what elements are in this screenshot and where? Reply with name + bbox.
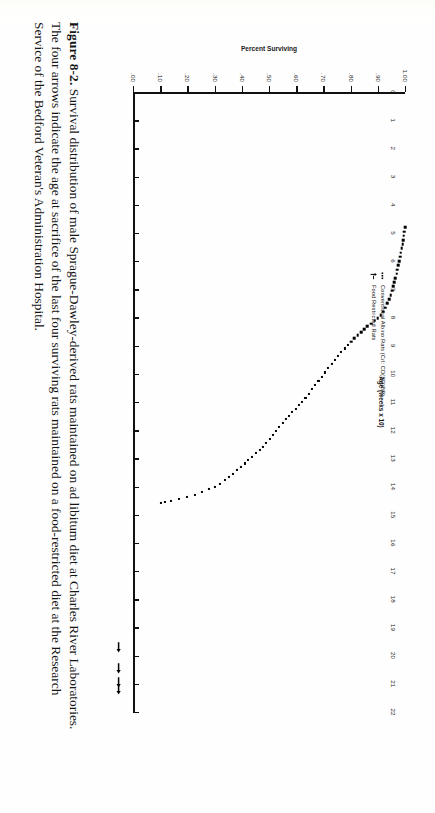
data-point [240, 466, 242, 468]
data-point [272, 434, 274, 436]
y-tick-label: .00 [130, 73, 137, 82]
data-point [164, 501, 166, 503]
y-tick-label: .20 [184, 73, 191, 82]
data-point [360, 331, 363, 334]
y-tick [351, 86, 352, 92]
data-point [243, 462, 245, 464]
data-point [186, 496, 188, 498]
y-tick [323, 86, 324, 92]
data-point [340, 351, 342, 353]
x-tick-label: 1 [390, 118, 397, 122]
data-point [396, 268, 399, 271]
data-point [314, 384, 316, 386]
x-tick [133, 712, 139, 713]
data-point [393, 281, 396, 284]
x-tick-label: 19 [390, 624, 397, 631]
x-tick [133, 656, 139, 657]
y-tick-label: .90 [374, 73, 381, 82]
data-point [301, 401, 303, 403]
y-tick [187, 86, 188, 92]
data-point [285, 418, 287, 420]
x-tick-label: 18 [390, 596, 397, 603]
data-point [288, 414, 290, 416]
data-point [399, 256, 402, 259]
y-tick [405, 86, 406, 92]
x-tick-label: 13 [390, 455, 397, 462]
y-axis-line [133, 92, 405, 94]
data-point [400, 247, 403, 250]
x-tick-label: 16 [390, 539, 397, 546]
sacrifice-arrow [122, 662, 129, 674]
data-point [291, 411, 293, 413]
data-point [334, 359, 336, 361]
data-point [194, 494, 196, 496]
chart-legend: Conventional Albino Rats (Crl: CD(SD)BR)… [369, 272, 387, 396]
x-tick [133, 177, 139, 178]
data-point [363, 328, 366, 331]
chart-axes-area: 012345678910111213141516171819202122 .00… [133, 92, 405, 712]
figure-caption-text: Survival distribution of male Sprague-Da… [32, 22, 82, 729]
data-point [401, 243, 404, 246]
y-tick-label: .50 [266, 73, 273, 82]
y-tick-label: .40 [238, 73, 245, 82]
data-point [344, 347, 346, 349]
data-point [395, 272, 398, 275]
x-tick-label: 17 [390, 568, 397, 575]
x-tick [133, 233, 139, 234]
rotated-page-content: 012345678910111213141516171819202122 .00… [0, 0, 435, 813]
data-point [170, 500, 172, 502]
data-point [394, 277, 397, 280]
y-tick [160, 86, 161, 92]
data-point [259, 449, 261, 451]
data-point [392, 285, 395, 288]
data-point [262, 445, 264, 447]
data-point [308, 392, 310, 394]
y-tick [378, 86, 379, 92]
legend-item-food-restricted: Food Restricted Rats [369, 272, 378, 396]
data-point [317, 380, 319, 382]
x-tick [133, 684, 139, 685]
data-point [265, 442, 267, 444]
data-point [298, 404, 300, 406]
x-tick-label: 21 [390, 680, 397, 687]
legend-item-conventional: Conventional Albino Rats (Crl: CD(SD)BR) [378, 272, 387, 396]
x-tick-label: 11 [390, 399, 397, 406]
y-tick-label: .70 [320, 73, 327, 82]
data-point [311, 388, 313, 390]
y-tick [133, 86, 134, 92]
sacrifice-arrow [122, 683, 129, 695]
x-tick [133, 205, 139, 206]
x-tick-label: 4 [390, 203, 397, 207]
data-point [232, 473, 234, 475]
x-tick [133, 458, 139, 459]
x-tick-label: 15 [390, 511, 397, 518]
data-point [255, 452, 257, 454]
sacrifice-arrow [122, 641, 129, 653]
x-tick-label: 3 [390, 175, 397, 179]
data-point [331, 363, 333, 365]
x-tick [133, 543, 139, 544]
data-point [208, 488, 210, 490]
data-point [350, 340, 353, 343]
x-tick [133, 120, 139, 121]
data-point [403, 230, 406, 233]
data-point [160, 502, 162, 504]
y-tick [296, 86, 297, 92]
y-axis-label: Percent Surviving [241, 45, 297, 52]
data-point [236, 469, 238, 471]
x-tick [133, 430, 139, 431]
y-tick [242, 86, 243, 92]
data-point [356, 334, 359, 337]
data-point [275, 430, 277, 432]
data-point [353, 337, 356, 340]
data-point [388, 298, 391, 301]
data-point [214, 485, 216, 487]
x-tick [133, 374, 139, 375]
scanned-page: 012345678910111213141516171819202122 .00… [0, 0, 435, 813]
x-tick [133, 317, 139, 318]
data-point [201, 491, 203, 493]
x-tick [133, 515, 139, 516]
data-point [178, 498, 180, 500]
square-dot-icon [379, 272, 386, 283]
data-point [321, 376, 323, 378]
